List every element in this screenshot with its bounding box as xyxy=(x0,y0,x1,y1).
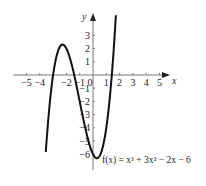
function-graph: x y −5−4−2−1012345321−1−2−3−4−5−6 f(x) =… xyxy=(0,0,206,186)
x-tick-label: 4 xyxy=(144,77,149,88)
y-tick-label: −6 xyxy=(79,149,90,160)
x-tick-label: −5 xyxy=(21,77,32,88)
y-axis-arrow-icon xyxy=(90,13,96,21)
y-axis-label: y xyxy=(81,11,87,22)
x-tick-label: 5 xyxy=(157,77,162,88)
ticks: −5−4−2−1012345321−1−2−3−4−5−6 xyxy=(21,30,162,160)
x-axis-arrow-icon xyxy=(162,72,170,78)
x-tick-label: −4 xyxy=(34,77,45,88)
x-axis-label: x xyxy=(171,75,177,86)
axes: x y xyxy=(13,11,177,170)
y-tick-label: 1 xyxy=(85,56,90,67)
y-tick-label: 3 xyxy=(85,30,90,41)
y-tick-label: −1 xyxy=(79,83,90,94)
x-tick-label: 1 xyxy=(104,77,109,88)
x-tick-label: −2 xyxy=(61,77,72,88)
x-tick-label: 2 xyxy=(117,77,122,88)
function-label: f(x) = x³ + 3x² − 2x − 6 xyxy=(102,155,191,166)
x-tick-label: 3 xyxy=(130,77,135,88)
y-tick-label: 2 xyxy=(85,43,90,54)
